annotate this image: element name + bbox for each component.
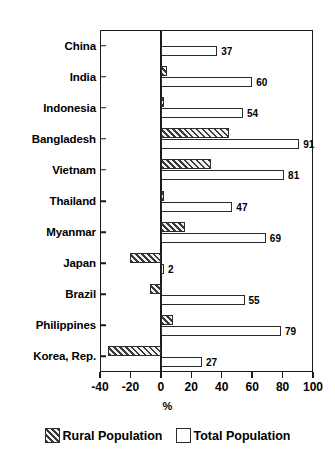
- x-axis-tick-label: 20: [185, 380, 198, 394]
- bar-rural-indonesia[interactable]: [161, 97, 164, 107]
- x-axis-tick: [160, 372, 162, 378]
- bar-value-label: 60: [256, 77, 267, 88]
- x-axis-tick-label: -20: [122, 380, 139, 394]
- x-axis-tick: [191, 372, 193, 378]
- bar-value-label: 27: [206, 356, 217, 367]
- y-axis-label: Vietnam: [52, 164, 96, 176]
- y-axis-tick: [100, 107, 106, 109]
- x-axis-tick: [221, 372, 223, 378]
- chart-legend: Rural Population Total Population: [0, 428, 335, 443]
- x-axis-tick-label: 0: [158, 380, 165, 394]
- y-axis-label: Thailand: [50, 195, 96, 207]
- legend-swatch-total-icon: [176, 428, 191, 443]
- legend-label-total: Total Population: [194, 429, 291, 443]
- legend-swatch-rural-icon: [45, 428, 60, 443]
- legend-label-rural: Rural Population: [63, 429, 163, 443]
- x-axis-tick: [130, 372, 132, 378]
- bar-value-label: 69: [270, 232, 281, 243]
- y-axis-tick: [100, 200, 106, 202]
- chart-container: ChinaIndiaIndonesiaBangladeshVietnamThai…: [0, 0, 335, 465]
- bar-rural-thailand[interactable]: [161, 191, 164, 201]
- y-axis-tick: [100, 231, 106, 233]
- bar-rural-vietnam[interactable]: [161, 159, 211, 169]
- y-axis-label: Brazil: [65, 288, 96, 300]
- legend-item-total[interactable]: Total Population: [176, 428, 291, 443]
- y-axis-tick: [100, 356, 106, 358]
- x-axis-tick-label: 40: [215, 380, 228, 394]
- x-axis-tick: [312, 372, 314, 378]
- y-axis-label: China: [65, 40, 96, 52]
- y-axis-label: Japan: [63, 257, 96, 269]
- bar-value-label: 37: [221, 46, 232, 57]
- y-axis-tick: [100, 138, 106, 140]
- legend-item-rural[interactable]: Rural Population: [45, 428, 163, 443]
- y-axis-label: Philippines: [36, 319, 96, 331]
- x-axis-tick-label: -40: [91, 380, 108, 394]
- bar-rural-brazil[interactable]: [150, 284, 161, 294]
- bar-rural-india[interactable]: [161, 66, 167, 76]
- bar-total-vietnam[interactable]: [161, 170, 284, 180]
- bar-total-china[interactable]: [161, 46, 217, 56]
- bar-total-brazil[interactable]: [161, 295, 245, 305]
- bar-value-label: 79: [285, 325, 296, 336]
- bar-value-label: 91: [303, 139, 314, 150]
- bar-rural-myanmar[interactable]: [161, 222, 185, 232]
- y-axis-label: Korea, Rep.: [33, 350, 96, 362]
- bar-total-japan[interactable]: [161, 264, 164, 274]
- bar-total-indonesia[interactable]: [161, 108, 243, 118]
- x-axis-tick-label: 60: [245, 380, 258, 394]
- bar-rural-bangladesh[interactable]: [161, 128, 229, 138]
- x-axis-tick-label: 100: [303, 380, 323, 394]
- x-axis-tick: [251, 372, 253, 378]
- y-axis-label: Bangladesh: [32, 133, 96, 145]
- x-axis-tick: [99, 372, 101, 378]
- bar-rural-japan[interactable]: [130, 253, 160, 263]
- bar-value-label: 47: [236, 201, 247, 212]
- y-axis-label: Indonesia: [43, 102, 96, 114]
- bar-total-thailand[interactable]: [161, 202, 233, 212]
- bar-rural-philippines[interactable]: [161, 315, 173, 325]
- bar-total-india[interactable]: [161, 77, 252, 87]
- bar-total-myanmar[interactable]: [161, 233, 266, 243]
- bar-value-label: 2: [168, 263, 174, 274]
- y-axis-label: India: [70, 71, 96, 83]
- bar-total-bangladesh[interactable]: [161, 139, 299, 149]
- bar-value-label: 81: [288, 170, 299, 181]
- y-axis-tick: [100, 76, 106, 78]
- x-axis-tick-label: 80: [276, 380, 289, 394]
- bar-rural-korea-rep[interactable]: [108, 346, 161, 356]
- x-axis-title: %: [0, 400, 335, 412]
- x-axis-tick: [282, 372, 284, 378]
- y-axis-tick: [100, 45, 106, 47]
- bar-value-label: 54: [247, 108, 258, 119]
- bar-total-philippines[interactable]: [161, 326, 281, 336]
- y-axis-tick: [100, 294, 106, 296]
- bar-total-korea-rep[interactable]: [161, 357, 202, 367]
- y-axis-label: Myanmar: [46, 226, 96, 238]
- y-axis-tick: [100, 169, 106, 171]
- bar-value-label: 55: [249, 294, 260, 305]
- y-axis-tick: [100, 325, 106, 327]
- y-axis-tick: [100, 262, 106, 264]
